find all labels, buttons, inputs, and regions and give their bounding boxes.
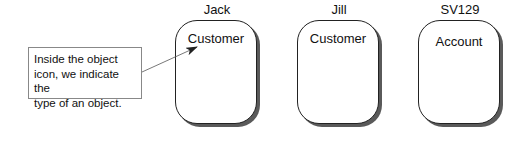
callout-line-2: icon, we indicate the: [34, 67, 136, 96]
object-name-jack: Jack: [172, 3, 262, 17]
object-type-jack: Customer: [176, 31, 256, 46]
object-name-jill: Jill: [294, 3, 384, 17]
callout-line-3: type of an object.: [34, 96, 136, 111]
callout-note: Inside the object icon, we indicate the …: [28, 47, 142, 99]
object-icon-jill: Customer: [297, 20, 379, 124]
callout-line-1: Inside the object: [34, 52, 136, 67]
object-icon-sv129: Account: [418, 20, 500, 124]
object-type-sv129: Account: [419, 34, 499, 49]
object-name-sv129: SV129: [415, 3, 505, 17]
object-icon-jack: Customer: [175, 20, 257, 124]
object-type-jill: Customer: [298, 31, 378, 46]
